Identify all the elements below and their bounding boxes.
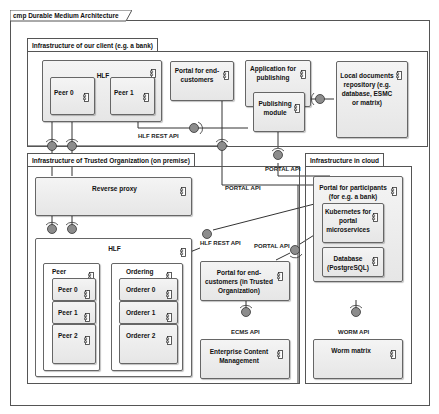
client-peer-0-label: Peer 0	[54, 88, 74, 97]
application-publishing-label: Application for publishing	[248, 64, 298, 82]
database-postgresql[interactable]: Database (PostgreSQL)	[322, 247, 384, 277]
portal-end-customers[interactable]: Portal for end-customers	[170, 61, 234, 101]
component-icon	[372, 252, 378, 261]
trusted-hlf-component[interactable]: HLF Peer Peer 0 Peer 1 Peer 2 Ordering O…	[35, 238, 192, 377]
orderer-2-label: Orderer 2	[126, 331, 155, 340]
trusted-infra-title: Infrastructure of Trusted Organization (…	[32, 157, 190, 164]
publishing-module-label: Publishing module	[255, 99, 295, 117]
kubernetes-label: Kubernetes for portal microservices	[324, 207, 372, 234]
component-icon	[277, 345, 283, 354]
trusted-hlf-label: HLF	[36, 244, 193, 253]
peer-0-label: Peer 0	[58, 285, 78, 294]
ordering-group-label: Ordering	[126, 267, 153, 276]
enterprise-content-management[interactable]: Enterprise Content Management	[200, 339, 290, 379]
ordering-group[interactable]: Ordering Orderer 0 Orderer 1 Orderer 2	[111, 263, 183, 371]
component-icon	[223, 66, 229, 75]
client-peer-0[interactable]: Peer 0	[50, 77, 95, 115]
kubernetes[interactable]: Kubernetes for portal microservices	[322, 203, 384, 243]
cloud-infra-tab: Infrastructure in cloud	[305, 153, 384, 167]
orderer-0-label: Orderer 0	[126, 285, 155, 294]
orderer-1-label: Orderer 1	[126, 308, 155, 317]
ecms-api-label: ECMS API	[231, 329, 260, 335]
client-hlf-component[interactable]: HLF Peer 0 Peer 1	[42, 60, 162, 122]
cloud-infra-title: Infrastructure in cloud	[310, 157, 379, 164]
ecm-label: Enterprise Content Management	[203, 347, 275, 365]
reverse-proxy-label: Reverse proxy	[36, 184, 193, 193]
trusted-infra-tab: Infrastructure of Trusted Organization (…	[27, 153, 195, 167]
frame-title-tab: cmp Durable Medium Architecture	[10, 10, 128, 21]
component-icon	[300, 65, 306, 74]
orderer-1[interactable]: Orderer 1	[119, 301, 178, 324]
local-documents-repository[interactable]: Local documents repository (e.g. databas…	[336, 61, 408, 138]
component-icon	[372, 208, 378, 217]
peer-group-label: Peer	[52, 267, 66, 276]
peer-1-label: Peer 1	[58, 308, 78, 317]
component-icon	[391, 182, 397, 191]
local-documents-label: Local documents repository (e.g. databas…	[339, 71, 395, 107]
peer-2-label: Peer 2	[58, 331, 78, 340]
worm-api-label: WORM API	[338, 329, 369, 335]
peer-2[interactable]: Peer 2	[52, 324, 96, 364]
component-icon	[166, 331, 172, 340]
hlf-rest-api-mid-label: HLF REST API	[200, 240, 241, 246]
component-icon	[84, 331, 90, 340]
worm-matrix[interactable]: Worm matrix	[313, 339, 403, 379]
client-peer-1[interactable]: Peer 1	[110, 77, 155, 115]
portal-api-right-label: PORTAL API	[265, 166, 301, 172]
peer-0[interactable]: Peer 0	[52, 278, 96, 301]
component-icon	[166, 285, 172, 294]
application-publishing[interactable]: Application for publishing Publishing mo…	[245, 60, 311, 107]
publishing-module[interactable]: Publishing module	[253, 92, 305, 132]
component-icon	[84, 308, 90, 317]
component-icon	[390, 345, 396, 354]
reverse-proxy[interactable]: Reverse proxy	[35, 177, 192, 216]
portal-api-mid-label: PORTAL API	[254, 243, 290, 249]
portal-participants-label: Portal for participants (for e.g. a bank…	[316, 183, 390, 201]
client-peer-1-label: Peer 1	[114, 88, 134, 97]
component-icon	[180, 182, 186, 191]
frame-title: cmp Durable Medium Architecture	[13, 12, 119, 19]
component-icon	[294, 99, 300, 108]
component-icon	[396, 66, 402, 75]
hlf-rest-api-top-label: HLF REST API	[138, 133, 179, 139]
component-icon	[166, 267, 172, 276]
component-icon	[166, 308, 172, 317]
component-icon	[143, 88, 149, 97]
database-label: Database (PostgreSQL)	[324, 254, 372, 272]
portal-trusted-label: Portal for end-customers (in Trusted Org…	[203, 268, 275, 295]
component-icon	[277, 267, 283, 276]
peer-group[interactable]: Peer Peer 0 Peer 1 Peer 2	[43, 263, 100, 371]
client-infra-title: Infrastructure of our client (e.g. a ban…	[32, 42, 153, 49]
portal-participants[interactable]: Portal for participants (for e.g. a bank…	[313, 176, 403, 282]
client-infra-tab: Infrastructure of our client (e.g. a ban…	[27, 38, 158, 52]
worm-matrix-label: Worm matrix	[316, 346, 386, 355]
component-icon	[83, 88, 89, 97]
portal-end-customers-label: Portal for end-customers	[173, 66, 221, 84]
orderer-2[interactable]: Orderer 2	[119, 324, 178, 364]
component-icon	[180, 243, 186, 252]
orderer-0[interactable]: Orderer 0	[119, 278, 178, 301]
component-icon	[84, 285, 90, 294]
component-icon	[150, 64, 156, 73]
component-icon	[88, 267, 94, 276]
portal-trusted-org[interactable]: Portal for end-customers (in Trusted Org…	[200, 261, 290, 301]
peer-1[interactable]: Peer 1	[52, 301, 96, 324]
portal-api-left-label: PORTAL API	[225, 185, 261, 191]
